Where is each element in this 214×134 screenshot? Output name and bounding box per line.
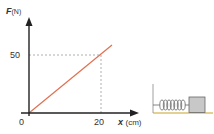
y-axis-arrow-icon xyxy=(26,17,33,26)
block xyxy=(189,97,205,113)
x-var: x xyxy=(118,117,123,127)
origin-label: 0 xyxy=(19,117,24,127)
y-unit: (N) xyxy=(12,8,22,15)
x-unit: (cm) xyxy=(126,118,142,127)
spring-coils xyxy=(160,100,185,110)
spring-diagram xyxy=(153,84,213,113)
chart-svg xyxy=(0,0,214,134)
x-tick-20: 20 xyxy=(94,117,104,127)
x-axis-label: x (cm) xyxy=(118,117,142,127)
y-axis-label: F(N) xyxy=(6,6,21,16)
y-tick-50: 50 xyxy=(10,50,20,60)
x-axis-arrow-icon xyxy=(130,110,139,117)
